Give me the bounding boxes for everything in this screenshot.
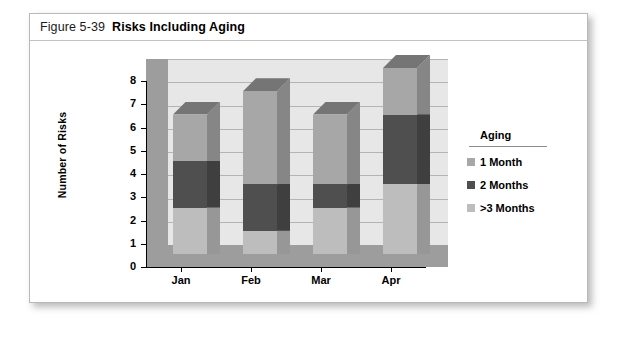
x-tick-mark <box>391 267 392 272</box>
y-tick-label: 4 <box>116 167 136 179</box>
y-axis-title: Number of Risks <box>56 95 68 215</box>
legend-title: Aging <box>480 129 577 141</box>
figure-number: Figure 5-39 <box>40 20 105 34</box>
bar-group[interactable] <box>383 59 430 267</box>
legend-swatch-icon <box>467 204 475 212</box>
x-tick-mark <box>321 267 322 272</box>
y-tick-label: 3 <box>116 190 136 202</box>
bar-segment-side <box>277 78 290 184</box>
y-tick-mark <box>141 151 146 152</box>
y-tick-mark <box>141 174 146 175</box>
bar-segment[interactable] <box>383 68 417 115</box>
bar-segment[interactable] <box>383 115 417 185</box>
x-tick-label: Feb <box>221 274 281 286</box>
x-tick-mark <box>181 267 182 272</box>
y-tick-label: 5 <box>116 144 136 156</box>
y-tick-label: 0 <box>116 260 136 272</box>
legend-item-label: 2 Months <box>480 179 528 191</box>
y-tick-label: 8 <box>116 74 136 86</box>
bar-segment-side <box>347 102 360 185</box>
bar-group[interactable] <box>313 59 360 267</box>
bar-segment[interactable] <box>173 161 207 208</box>
bar-segment[interactable] <box>313 115 347 185</box>
bar-segment[interactable] <box>173 115 207 162</box>
plot-area: 012345678 JanFebMarApr <box>146 59 448 267</box>
y-tick-mark <box>141 267 146 268</box>
y-tick-mark <box>141 128 146 129</box>
x-tick-mark <box>251 267 252 272</box>
bar-segment[interactable] <box>383 184 417 254</box>
y-tick-mark <box>141 197 146 198</box>
chart-body: Number of Risks 012345678 JanFebMarApr A… <box>30 41 587 303</box>
y-axis-line <box>146 81 147 267</box>
bar-segment[interactable] <box>313 208 347 255</box>
legend: Aging 1 Month2 Months>3 Months <box>467 129 577 225</box>
figure-card: Figure 5-39 Risks Including Aging Number… <box>29 13 588 303</box>
bar-group[interactable] <box>173 59 220 267</box>
legend-items: 1 Month2 Months>3 Months <box>467 156 577 214</box>
y-tick-mark <box>141 81 146 82</box>
legend-item[interactable]: >3 Months <box>467 202 577 214</box>
legend-swatch-icon <box>467 181 475 189</box>
legend-rule <box>469 146 547 147</box>
x-axis-line <box>146 267 426 268</box>
legend-item-label: >3 Months <box>480 202 535 214</box>
bar-segment[interactable] <box>243 91 277 184</box>
x-tick-label: Mar <box>291 274 351 286</box>
bar-segment[interactable] <box>243 231 277 254</box>
y-tick-mark <box>141 104 146 105</box>
y-tick-mark <box>141 221 146 222</box>
legend-item[interactable]: 2 Months <box>467 179 577 191</box>
legend-swatch-icon <box>467 158 475 166</box>
x-tick-label: Jan <box>151 274 211 286</box>
plot-left-wall <box>146 59 168 267</box>
y-tick-label: 1 <box>116 237 136 249</box>
y-tick-mark <box>141 244 146 245</box>
y-tick-label: 2 <box>116 214 136 226</box>
figure-title: Risks Including Aging <box>112 20 245 34</box>
legend-item[interactable]: 1 Month <box>467 156 577 168</box>
legend-item-label: 1 Month <box>480 156 522 168</box>
y-tick-label: 7 <box>116 97 136 109</box>
bar-group[interactable] <box>243 59 290 267</box>
bar-segment[interactable] <box>243 184 277 231</box>
figure-header: Figure 5-39 Risks Including Aging <box>30 14 587 41</box>
bar-segment[interactable] <box>313 184 347 207</box>
x-tick-label: Apr <box>361 274 421 286</box>
bar-segment[interactable] <box>173 208 207 255</box>
y-tick-label: 6 <box>116 121 136 133</box>
